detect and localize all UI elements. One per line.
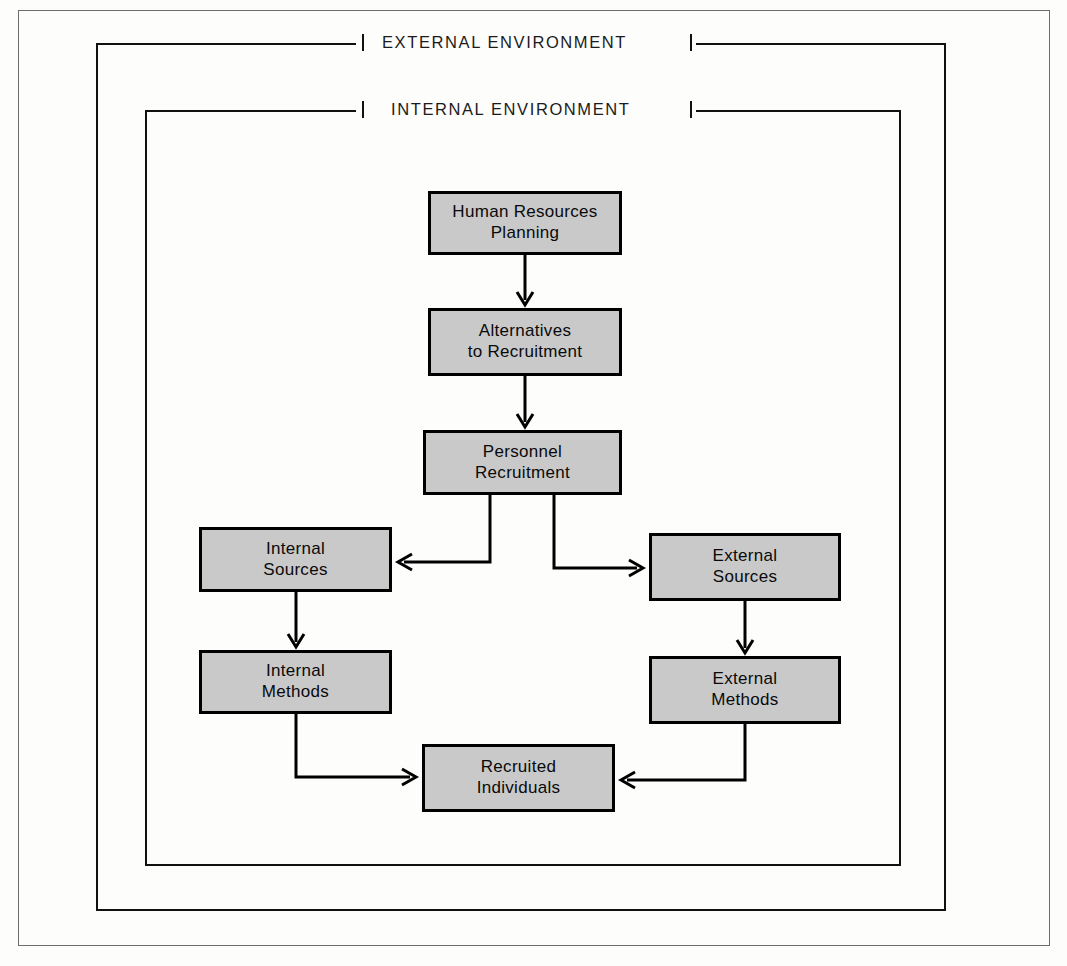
node-label: RecruitedIndividuals: [473, 757, 565, 798]
diagram-canvas: EXTERNAL ENVIRONMENT INTERNAL ENVIRONMEN…: [0, 0, 1067, 966]
node-label: ExternalSources: [709, 546, 782, 587]
node-internal-methods[interactable]: InternalMethods: [199, 650, 392, 714]
node-external-sources[interactable]: ExternalSources: [649, 533, 841, 601]
internal-environment-label: INTERNAL ENVIRONMENT: [391, 100, 631, 119]
node-alternatives-to-recruitment[interactable]: Alternativesto Recruitment: [428, 308, 622, 376]
node-label: InternalSources: [259, 539, 331, 580]
node-label: Human ResourcesPlanning: [448, 202, 601, 243]
node-external-methods[interactable]: ExternalMethods: [649, 656, 841, 724]
external-frame-cap-left: [362, 34, 364, 51]
node-label: InternalMethods: [258, 661, 333, 702]
node-internal-sources[interactable]: InternalSources: [199, 527, 392, 592]
internal-frame-cap-right: [690, 101, 692, 118]
external-environment-label: EXTERNAL ENVIRONMENT: [382, 33, 627, 52]
node-human-resources-planning[interactable]: Human ResourcesPlanning: [428, 191, 622, 255]
internal-frame-cap-left: [362, 101, 364, 118]
node-personnel-recruitment[interactable]: PersonnelRecruitment: [423, 430, 622, 495]
external-frame-cap-right: [690, 34, 692, 51]
node-label: PersonnelRecruitment: [471, 442, 574, 483]
node-label: ExternalMethods: [707, 669, 782, 710]
node-label: Alternativesto Recruitment: [464, 321, 587, 362]
node-recruited-individuals[interactable]: RecruitedIndividuals: [422, 744, 615, 812]
